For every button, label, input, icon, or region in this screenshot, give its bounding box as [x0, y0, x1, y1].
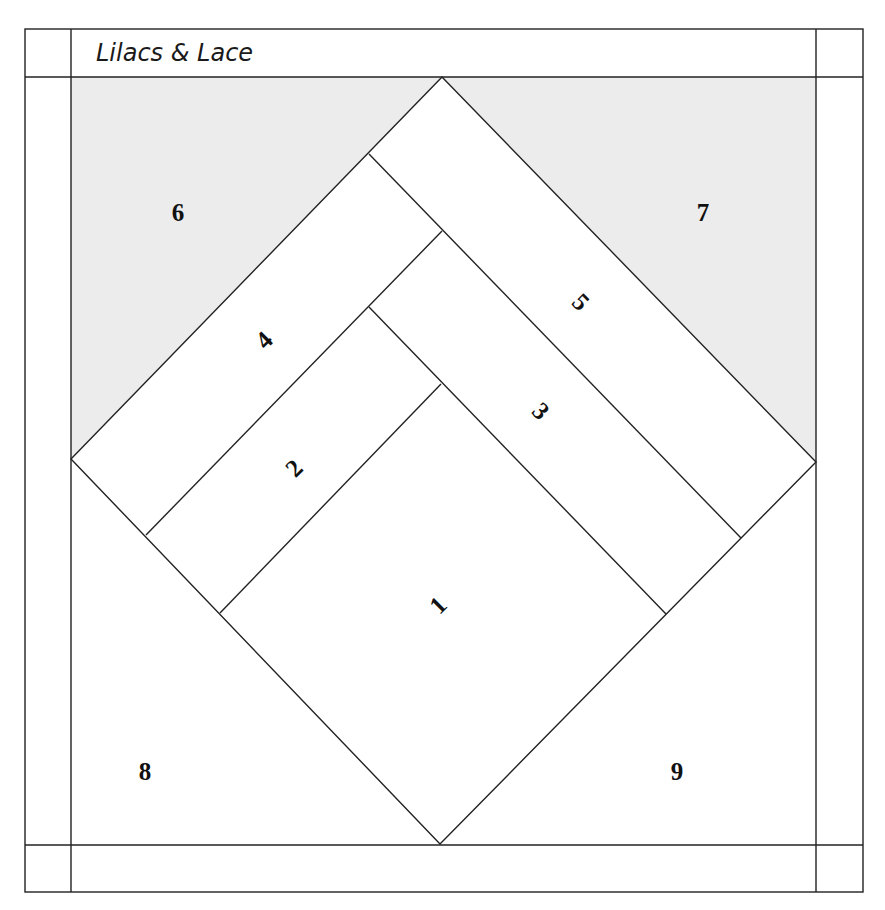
piece-label-9: 9: [671, 758, 684, 785]
quilt-block-diagram: Lilacs & Lace 1 2 3 4 5 6 7 8 9: [0, 0, 885, 910]
seam-2-3: [369, 307, 666, 614]
seam-1-2: [220, 384, 441, 613]
piece-label-6: 6: [172, 199, 185, 226]
piece-label-3: 3: [527, 397, 555, 425]
piece-label-8: 8: [139, 758, 152, 785]
piece-label-2: 2: [280, 454, 308, 482]
piece-label-4: 4: [250, 326, 278, 354]
piece-label-7: 7: [697, 199, 710, 226]
piece-label-5: 5: [567, 288, 595, 316]
piece-label-1: 1: [424, 591, 452, 619]
block-title: Lilacs & Lace: [96, 39, 253, 67]
